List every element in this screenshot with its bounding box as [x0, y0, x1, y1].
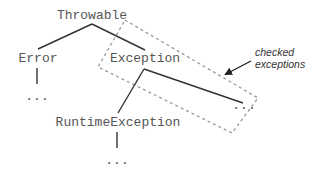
node-throwable: Throwable	[57, 8, 127, 23]
annotation-label-line1: checked	[255, 46, 295, 58]
annotation-arrow-icon	[226, 61, 251, 74]
node-exception: Exception	[110, 51, 180, 66]
diagram-canvas: Throwable Error Exception RuntimeExcepti…	[0, 0, 325, 173]
node-error: Error	[18, 51, 57, 66]
exception-hierarchy-diagram: Throwable Error Exception RuntimeExcepti…	[0, 0, 325, 173]
node-runtime-exception: RuntimeException	[56, 115, 181, 130]
edge-throwable-error	[38, 24, 92, 49]
annotation-label-line2: exceptions	[255, 58, 306, 70]
edge-throwable-exception	[92, 24, 145, 50]
node-runtime-more: ...	[105, 153, 128, 168]
node-exception-more: ...	[232, 98, 255, 113]
node-error-more: ...	[25, 89, 48, 104]
edge-exception-more	[144, 69, 243, 103]
edge-exception-runtime	[118, 69, 144, 113]
